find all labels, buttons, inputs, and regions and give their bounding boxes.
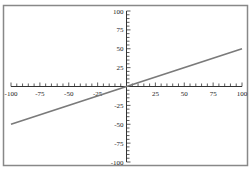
x-tick-label: 50 (181, 90, 189, 98)
x-tick-label: 75 (210, 90, 218, 98)
y-tick-label: 25 (117, 64, 125, 72)
x-tick-label: -75 (35, 90, 45, 98)
y-tick-label: 50 (117, 45, 125, 53)
y-tick-label: -50 (114, 121, 124, 129)
y-tick-label: -75 (114, 140, 124, 148)
x-tick-label: -100 (5, 90, 18, 98)
y-tick-label: 100 (113, 8, 124, 16)
x-tick-label: -50 (64, 90, 74, 98)
x-tick-label: 100 (237, 90, 248, 98)
y-tick-label: -25 (114, 102, 124, 110)
line-chart: -100-75-50-25255075100 100755025-25-50-7… (0, 0, 251, 169)
x-tick-label: 25 (152, 90, 160, 98)
y-tick-label: -100 (111, 159, 124, 167)
y-tick-label: 75 (117, 26, 125, 34)
